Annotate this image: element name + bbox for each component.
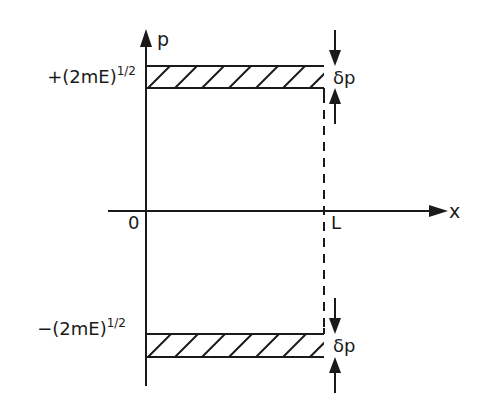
upper-band-label: +(2mE)1/2 — [47, 64, 136, 87]
upper-band-label-base: +(2mE) — [47, 66, 117, 87]
lower-band-label-exponent: 1/2 — [107, 316, 126, 330]
upper-delta-p-indicator: δp — [329, 30, 355, 124]
upper-delta-p-label: δp — [333, 67, 355, 88]
lower-delta-p-label: δp — [333, 335, 355, 356]
upper-band-label-exponent: 1/2 — [117, 64, 136, 78]
origin-label: 0 — [128, 212, 139, 233]
phase-space-diagram: p x 0 L +(2mE)1/2 — [0, 0, 481, 418]
lower-band-label: −(2mE)1/2 — [37, 316, 126, 339]
lower-band-label-base: −(2mE) — [37, 318, 107, 339]
arrow-down-icon — [329, 50, 341, 66]
arrow-up-icon — [329, 357, 341, 373]
p-axis-label: p — [157, 28, 169, 50]
x-axis-label: x — [449, 200, 460, 222]
upper-band: +(2mE)1/2 δp — [47, 30, 355, 124]
p-axis-arrowhead-icon — [140, 29, 152, 47]
L-label: L — [331, 212, 341, 233]
arrow-down-icon — [329, 318, 341, 334]
x-axis: x 0 L — [108, 200, 460, 233]
arrow-up-icon — [329, 88, 341, 104]
lower-delta-p-indicator: δp — [329, 298, 355, 393]
x-axis-arrowhead-icon — [429, 205, 448, 217]
lower-band: −(2mE)1/2 δp — [37, 298, 355, 393]
